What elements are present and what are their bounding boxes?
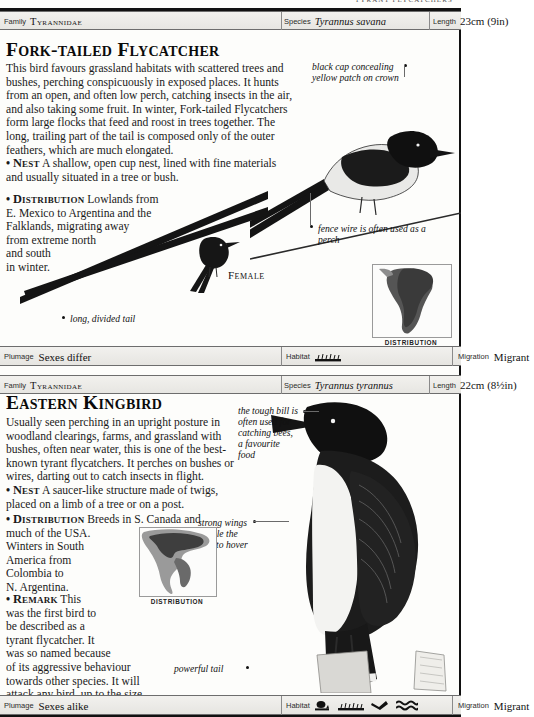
length-cell: Length 22cm (8½in) <box>433 376 534 394</box>
migration-value: Migrant <box>494 351 529 363</box>
distribution-line-2: Falklands, migrating away <box>6 220 136 234</box>
remark-line: • Remark This <box>6 593 114 607</box>
remark-line-6: towards other species. It will <box>6 675 186 689</box>
distribution-map-caption: DISTRIBUTION <box>139 598 215 605</box>
species-value: Tyrannus tyrannus <box>315 380 393 391</box>
family-cell: Family Tyrannidae <box>4 12 280 30</box>
length-value: 23cm (9in) <box>460 15 509 27</box>
annotation-leader <box>303 411 319 412</box>
entry-body-text: This bird favours grassland habitats wit… <box>6 62 294 184</box>
entry-footer-bar: Plumage Sexes alike Habitat <box>0 695 461 715</box>
distribution-line: • Distribution Lowlands from <box>6 193 202 207</box>
plumage-cell: Plumage Sexes alike <box>4 696 276 715</box>
grassland-icon <box>315 348 341 366</box>
entry-body-text: Usually seen perching in an upright post… <box>6 416 238 511</box>
annotation-divided-tail: long, divided tail <box>70 313 180 324</box>
distribution-map <box>372 264 452 338</box>
bullet-glyph: • <box>6 193 13 206</box>
grassland-icon <box>338 697 364 715</box>
migration-cell: Migration Migrant <box>458 696 534 715</box>
annotation-dot <box>62 316 65 319</box>
length-label: Length <box>433 17 456 26</box>
remark-line-3: tyrant flycatcher. It <box>6 634 118 648</box>
migration-label: Migration <box>458 352 489 361</box>
page-title: Eastern Kingbird <box>6 392 162 414</box>
flying-bird-icon <box>371 697 389 715</box>
meta-divider <box>281 12 282 30</box>
family-label: Family <box>4 381 26 390</box>
annotation-leader <box>310 193 311 226</box>
meta-divider <box>281 376 282 394</box>
distribution-line-5: in winter. <box>6 261 102 275</box>
family-value: Tyrannidae <box>30 380 82 391</box>
bullet-glyph: • <box>6 513 13 526</box>
plumage-label: Plumage <box>4 352 34 361</box>
running-head: TYRANT FLYCATCHERS <box>0 0 461 8</box>
footer-divider <box>281 696 282 715</box>
bullet-glyph: • <box>6 157 13 170</box>
migration-value: Migrant <box>494 700 529 712</box>
intro-paragraph: Usually seen perching in an upright post… <box>6 416 238 484</box>
length-value: 22cm (8½in) <box>460 379 517 391</box>
family-value: Tyrannidae <box>30 16 82 27</box>
distribution-line-1: much of the USA. <box>6 527 134 541</box>
distribution-map-caption: DISTRIBUTION <box>372 339 450 346</box>
distribution-keyword: Distribution <box>13 512 84 526</box>
plumage-label: Plumage <box>4 701 34 710</box>
nest-paragraph: • Nest A saucer-like structure made of t… <box>6 484 238 511</box>
species-value: Tyrannus savana <box>315 16 386 27</box>
remark-line-2: be described as a <box>6 620 114 634</box>
annotation-leader <box>404 65 405 77</box>
annotation-leader <box>253 521 289 522</box>
migration-cell: Migration Migrant <box>458 347 534 366</box>
bullet-glyph: • <box>6 484 13 497</box>
distribution-line-2: Winters in South <box>6 540 106 554</box>
intro-paragraph: This bird favours grassland habitats wit… <box>6 62 294 157</box>
nest-text: A shallow, open cup nest, lined with fin… <box>6 157 276 184</box>
annotation-powerful-tail: powerful tail <box>174 663 244 674</box>
remark-keyword: Remark <box>13 592 58 606</box>
female-figure-label: Female <box>228 269 265 281</box>
annotation-fence-wire: fence wire is often used as a perch <box>318 223 428 245</box>
distribution-line-0: Breeds in S. Canada and <box>87 513 201 526</box>
remark-line-1: was the first bird to <box>6 607 114 621</box>
habitat-label: Habitat <box>286 352 310 361</box>
annotation-dot <box>246 666 249 669</box>
remark-line-0: This <box>60 593 81 606</box>
distribution-line-0: Lowlands from <box>87 193 158 206</box>
distribution-block: • Distribution Lowlands from E. Mexico t… <box>6 193 202 275</box>
length-cell: Length 23cm (9in) <box>433 12 534 30</box>
nest-paragraph: • Nest A shallow, open cup nest, lined w… <box>6 157 294 184</box>
remark-line-4: was so named because <box>6 647 146 661</box>
nest-keyword: Nest <box>13 156 40 170</box>
distribution-map <box>139 527 217 597</box>
distribution-line-1: E. Mexico to Argentina and the <box>6 207 202 221</box>
family-label: Family <box>4 17 26 26</box>
habitat-label: Habitat <box>286 701 310 710</box>
nest-keyword: Nest <box>13 483 40 497</box>
species-label: Species <box>284 17 311 26</box>
annotation-black-cap: black cap concealing yellow patch on cro… <box>312 61 412 83</box>
habitat-icon-group <box>315 348 341 366</box>
entry-meta-bar: Family Tyrannidae Species Tyrannus savan… <box>0 11 461 30</box>
bullet-glyph: • <box>6 593 13 606</box>
species-label: Species <box>284 381 311 390</box>
distribution-line-4: and south <box>6 247 106 261</box>
distribution-line-3: America from <box>6 554 106 568</box>
perch-post-sketch <box>408 649 454 693</box>
species-entry-fork-tailed-flycatcher: Family Tyrannidae Species Tyrannus savan… <box>0 11 461 375</box>
length-label: Length <box>433 381 456 390</box>
entry-footer-bar: Plumage Sexes differ Habitat Migration M… <box>0 346 461 366</box>
distribution-keyword: Distribution <box>13 192 84 206</box>
running-head-text: TYRANT FLYCATCHERS <box>355 0 453 4</box>
bush-icon <box>315 697 331 715</box>
plumage-value: Sexes differ <box>39 351 92 363</box>
page-title: Fork-tailed Flycatcher <box>6 39 219 61</box>
water-icon <box>396 697 418 715</box>
distribution-line-3: from extreme north <box>6 234 124 248</box>
remark-line-5: of its aggressive behaviour <box>6 661 172 675</box>
plumage-cell: Plumage Sexes differ <box>4 347 276 366</box>
migration-label: Migration <box>458 701 489 710</box>
distribution-line-4: Colombia to <box>6 567 106 581</box>
